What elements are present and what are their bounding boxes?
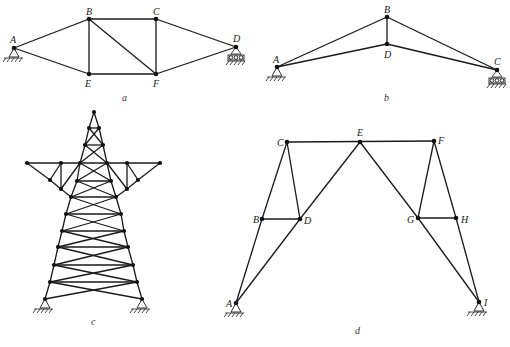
caption-b: b xyxy=(384,92,389,103)
caption-d: d xyxy=(355,325,361,336)
node-label-d-H: H xyxy=(460,214,469,225)
roller-support-icon xyxy=(487,70,506,88)
node-label-d-G: G xyxy=(407,214,414,225)
node-label-a-A: A xyxy=(9,34,17,45)
node-label-a-E: E xyxy=(84,78,91,89)
truss-figure-d: A B C D E F G H I d xyxy=(224,127,488,336)
nodes-c xyxy=(25,110,162,301)
pin-support-icon xyxy=(266,67,286,81)
truss-figure-a: A B C D E F a xyxy=(3,6,245,103)
members-d xyxy=(236,141,479,303)
node-label-b-D: D xyxy=(383,49,392,60)
pin-support-icon xyxy=(130,299,150,313)
pin-support-icon xyxy=(33,299,53,313)
node-label-d-I: I xyxy=(483,297,488,308)
node-label-b-A: A xyxy=(272,54,280,65)
node-label-d-D: D xyxy=(303,215,312,226)
node-label-b-C: C xyxy=(494,56,501,67)
node-label-d-E: E xyxy=(356,127,363,138)
node-label-d-B: B xyxy=(253,214,259,225)
node-label-a-B: B xyxy=(86,6,92,17)
nodes-a xyxy=(12,17,239,77)
node-label-a-F: F xyxy=(152,78,160,89)
node-label-a-C: C xyxy=(153,6,160,17)
caption-c: c xyxy=(91,316,96,327)
truss-figure-c: c xyxy=(25,110,162,327)
node-label-d-C: C xyxy=(277,137,284,148)
caption-a: a xyxy=(122,92,127,103)
truss-figure-b: A B D C b xyxy=(266,4,506,103)
node-label-b-B: B xyxy=(384,4,390,15)
node-label-a-D: D xyxy=(232,33,241,44)
nodes-d xyxy=(234,139,482,306)
members-a xyxy=(14,19,236,74)
members-c xyxy=(27,112,160,299)
truss-figures: A B C D E F a xyxy=(0,0,510,347)
node-label-d-A: A xyxy=(225,298,233,309)
node-label-d-F: F xyxy=(437,135,445,146)
